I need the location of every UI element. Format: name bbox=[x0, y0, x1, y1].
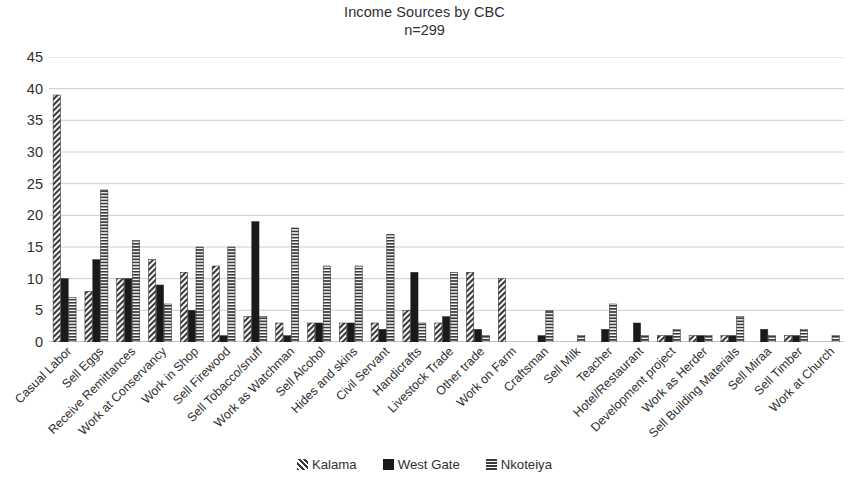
y-axis-tick-label: 40 bbox=[0, 81, 43, 96]
chart-legend: KalamaWest GateNkoteiya bbox=[0, 458, 849, 471]
chart-subtitle: n=299 bbox=[0, 22, 849, 40]
bar bbox=[609, 304, 616, 342]
bar bbox=[737, 317, 744, 342]
bar bbox=[180, 272, 187, 342]
bar bbox=[291, 228, 298, 342]
y-axis-tick-label: 35 bbox=[0, 113, 43, 128]
chart-title: Income Sources by CBC bbox=[0, 4, 849, 22]
legend-item[interactable]: Nkoteiya bbox=[486, 458, 552, 471]
bar bbox=[339, 323, 346, 342]
legend-label: Nkoteiya bbox=[501, 458, 552, 471]
bar bbox=[228, 247, 235, 342]
bar bbox=[602, 329, 609, 342]
bar bbox=[347, 323, 354, 342]
bar bbox=[85, 291, 92, 342]
legend-swatch-horizontal-lines-icon bbox=[486, 459, 497, 470]
bar bbox=[164, 304, 171, 342]
legend-swatch-solid-icon bbox=[383, 459, 394, 470]
bar bbox=[244, 317, 251, 342]
bar bbox=[101, 190, 108, 342]
bar bbox=[379, 329, 386, 342]
bar bbox=[93, 260, 100, 342]
bar bbox=[252, 222, 259, 342]
bar bbox=[673, 329, 680, 342]
y-axis-tick-label: 25 bbox=[0, 176, 43, 191]
bar bbox=[132, 241, 139, 342]
bar bbox=[69, 298, 76, 342]
y-axis-tick-label: 5 bbox=[0, 303, 43, 318]
bar bbox=[156, 285, 163, 342]
y-axis-tick-label: 10 bbox=[0, 271, 43, 286]
bar bbox=[196, 247, 203, 342]
bar bbox=[403, 310, 410, 342]
legend-label: Kalama bbox=[312, 458, 357, 471]
chart-container: Income Sources by CBC n=299 454035302520… bbox=[0, 0, 849, 483]
bars-layer bbox=[49, 57, 844, 342]
bar bbox=[546, 310, 553, 342]
x-axis: Casual LaborSell EggsReceive Remittances… bbox=[49, 342, 844, 454]
bar bbox=[61, 279, 68, 342]
bar bbox=[188, 310, 195, 342]
bar bbox=[443, 317, 450, 342]
bar bbox=[371, 323, 378, 342]
bar bbox=[411, 272, 418, 342]
bar bbox=[761, 329, 768, 342]
y-axis-tick-label: 30 bbox=[0, 145, 43, 160]
bar bbox=[212, 266, 219, 342]
bar bbox=[276, 323, 283, 342]
chart-title-block: Income Sources by CBC n=299 bbox=[0, 4, 849, 39]
bar bbox=[498, 279, 505, 342]
y-axis-tick-label: 15 bbox=[0, 240, 43, 255]
bar bbox=[633, 323, 640, 342]
bar bbox=[435, 323, 442, 342]
bar bbox=[800, 329, 807, 342]
bar bbox=[450, 272, 457, 342]
y-axis-tick-label: 45 bbox=[0, 50, 43, 65]
bar bbox=[315, 323, 322, 342]
y-axis: 454035302520151050 bbox=[0, 57, 43, 342]
legend-item[interactable]: West Gate bbox=[383, 458, 460, 471]
legend-label: West Gate bbox=[398, 458, 460, 471]
bar bbox=[474, 329, 481, 342]
bar bbox=[53, 95, 60, 342]
bar bbox=[117, 279, 124, 342]
bar bbox=[260, 317, 267, 342]
plot-area bbox=[49, 57, 844, 342]
bar bbox=[323, 266, 330, 342]
bar bbox=[419, 323, 426, 342]
bar bbox=[387, 234, 394, 342]
bar bbox=[308, 323, 315, 342]
bar bbox=[467, 272, 474, 342]
legend-swatch-diagonal-hatch-icon bbox=[297, 459, 308, 470]
bar bbox=[125, 279, 132, 342]
legend-item[interactable]: Kalama bbox=[297, 458, 357, 471]
bar bbox=[149, 260, 156, 342]
y-axis-tick-label: 0 bbox=[0, 335, 43, 350]
y-axis-tick-label: 20 bbox=[0, 208, 43, 223]
bar bbox=[355, 266, 362, 342]
